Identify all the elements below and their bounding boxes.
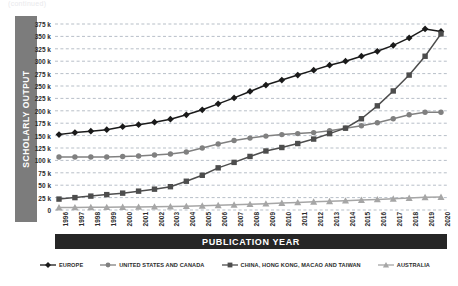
circle-marker-icon: [106, 263, 111, 268]
circle-marker-icon: [120, 154, 125, 159]
square-marker-icon: [406, 72, 411, 77]
y-tick-label: 250 k: [35, 83, 51, 90]
y-axis-tick-labels: 375 k350 k325 k300 k275 k250 k225 k200 k…: [0, 16, 53, 212]
diamond-marker-icon: [167, 116, 174, 123]
square-marker-icon: [168, 184, 173, 189]
diamond-marker-icon: [72, 129, 79, 136]
circle-marker-icon: [215, 141, 220, 146]
series-square: [56, 31, 443, 202]
y-tick-label: 0: [47, 207, 51, 214]
y-tick-label: 350 k: [35, 33, 51, 40]
circle-marker-icon: [279, 132, 284, 137]
plot-area: [55, 16, 447, 212]
circle-marker-icon: [168, 151, 173, 156]
x-tick-label: 2009: [269, 212, 276, 226]
x-tick-label: 2006: [221, 212, 228, 226]
y-tick-label: 275 k: [35, 70, 51, 77]
square-marker-icon: [359, 116, 364, 121]
diamond-marker-icon: [45, 262, 51, 268]
x-axis-title-band: PUBLICATION YEAR: [55, 234, 447, 249]
series-line: [59, 29, 441, 135]
x-tick-label: 2001: [142, 212, 149, 226]
x-axis-title: PUBLICATION YEAR: [202, 237, 300, 247]
circle-marker-icon: [56, 154, 61, 159]
x-tick-label: 2014: [349, 212, 356, 226]
diamond-marker-icon: [199, 106, 206, 113]
legend-item[interactable]: CHINA, HONG KONG, MACAO AND TAIWAN: [222, 261, 361, 269]
legend-item[interactable]: AUSTRALIA: [378, 261, 430, 269]
series-line: [59, 112, 441, 157]
circle-marker-icon: [438, 110, 443, 115]
circle-marker-icon: [104, 154, 109, 159]
diamond-marker-icon: [247, 88, 254, 95]
diamond-marker-icon: [151, 119, 158, 126]
square-marker-icon: [104, 192, 109, 197]
square-marker-icon: [56, 196, 61, 201]
x-tick-label: 2008: [253, 212, 260, 226]
top-caption: (continued): [8, 0, 248, 11]
circle-marker-icon: [406, 112, 411, 117]
square-marker-icon: [311, 136, 316, 141]
y-tick-label: 100 k: [35, 157, 51, 164]
chart-svg: [55, 16, 447, 212]
circle-marker-icon: [136, 153, 141, 158]
y-tick-label: 325 k: [35, 45, 51, 52]
x-tick-label: 2019: [428, 212, 435, 226]
circle-marker-icon: [375, 120, 380, 125]
square-marker-icon: [227, 263, 232, 268]
series-triangle: [55, 194, 444, 211]
square-marker-icon: [215, 165, 220, 170]
x-tick-label: 2016: [380, 212, 387, 226]
x-tick-label: 2010: [285, 212, 292, 226]
square-marker-icon: [438, 31, 443, 36]
square-marker-icon: [327, 131, 332, 136]
x-tick-label: 2004: [189, 212, 196, 226]
legend-item[interactable]: EUROPE: [40, 261, 83, 269]
square-marker-icon: [72, 195, 77, 200]
x-tick-label: 2013: [333, 212, 340, 226]
diamond-marker-icon: [231, 95, 238, 102]
circle-marker-icon: [231, 138, 236, 143]
square-marker-icon: [184, 179, 189, 184]
square-marker-icon: [295, 141, 300, 146]
diamond-marker-icon: [183, 111, 190, 118]
y-tick-label: 125 k: [35, 145, 51, 152]
x-tick-label: 1999: [110, 212, 117, 226]
square-marker-icon: [375, 103, 380, 108]
square-marker-icon: [231, 160, 236, 165]
y-tick-label: 375 k: [35, 21, 51, 28]
diamond-marker-icon: [422, 26, 429, 33]
circle-marker-icon: [422, 110, 427, 115]
square-marker-icon: [88, 193, 93, 198]
diamond-marker-icon: [215, 100, 222, 107]
diamond-marker-icon: [342, 58, 349, 65]
x-tick-label: 2020: [444, 212, 451, 226]
x-tick-label: 2000: [126, 212, 133, 226]
legend-item[interactable]: UNITED STATES AND CANADA: [100, 261, 204, 269]
y-tick-label: 50 k: [38, 182, 51, 189]
x-tick-label: 2003: [173, 212, 180, 226]
y-tick-label: 300 k: [35, 58, 51, 65]
circle-marker-icon: [184, 149, 189, 154]
y-tick-label: 75 k: [38, 169, 51, 176]
chart-legend: EUROPEUNITED STATES AND CANADACHINA, HON…: [40, 258, 430, 272]
y-tick-label: 225 k: [35, 95, 51, 102]
diamond-marker-icon: [406, 35, 413, 42]
circle-marker-icon: [247, 135, 252, 140]
circle-marker-icon: [295, 131, 300, 136]
circle-marker-icon: [311, 130, 316, 135]
diamond-marker-icon: [103, 126, 110, 133]
diamond-marker-icon: [326, 62, 333, 69]
square-marker-icon: [422, 54, 427, 59]
x-tick-label: 2015: [364, 212, 371, 226]
circle-marker-icon: [152, 152, 157, 157]
legend-label: AUSTRALIA: [397, 262, 430, 268]
diamond-marker-icon: [294, 72, 301, 79]
square-marker-icon: [136, 188, 141, 193]
diamond-marker-icon: [119, 123, 126, 130]
circle-marker-icon: [391, 116, 396, 121]
triangle-marker-icon: [378, 261, 394, 269]
circle-marker-icon: [100, 261, 116, 269]
y-tick-label: 175 k: [35, 120, 51, 127]
square-marker-icon: [279, 145, 284, 150]
